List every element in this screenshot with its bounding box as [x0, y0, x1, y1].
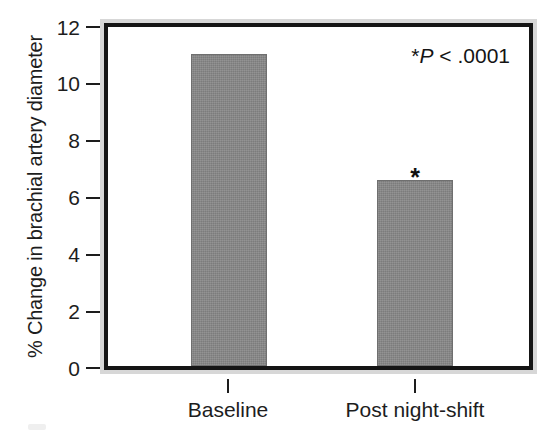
p-value-letter: P: [420, 44, 434, 67]
bar-baseline[interactable]: [191, 54, 267, 366]
bar-post-night-shift[interactable]: [377, 180, 453, 366]
bar-chart-figure: % Change in brachial artery diameter 12 …: [0, 0, 558, 435]
scan-artifact: [28, 424, 46, 430]
y-tick-label-4: 4: [38, 244, 80, 265]
p-value-annotation: *P < .0001: [411, 45, 510, 66]
p-value-comparison: < .0001: [434, 44, 510, 67]
y-tick-label-0: 0: [38, 358, 80, 379]
plot-frame-inner-border: * *P < .0001: [104, 23, 533, 370]
y-tick-label-10: 10: [38, 73, 80, 94]
y-tick-label-8: 8: [38, 130, 80, 151]
y-tick-label-6: 6: [38, 187, 80, 208]
x-tick-label-post-night-shift: Post night-shift: [346, 398, 485, 421]
y-tick-label-12: 12: [38, 17, 80, 38]
p-value-star: *: [411, 44, 419, 67]
y-tick-label-2: 2: [38, 301, 80, 322]
x-tick-mark-baseline: [227, 379, 229, 393]
x-tick-label-baseline: Baseline: [188, 398, 269, 421]
significance-asterisk: *: [400, 165, 430, 190]
x-tick-mark-post-night-shift: [414, 379, 416, 393]
plot-area: * *P < .0001: [108, 27, 529, 366]
y-axis-tick-labels: 12 10 8 6 4 2 0: [38, 0, 80, 435]
plot-frame: * *P < .0001: [100, 19, 537, 374]
